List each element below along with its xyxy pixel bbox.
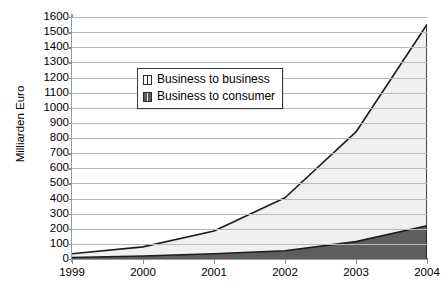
y-tick-mark bbox=[67, 93, 72, 94]
y-tick-mark bbox=[67, 168, 72, 169]
chart-legend: Business to business Business to consume… bbox=[137, 68, 283, 109]
gridline bbox=[72, 153, 427, 154]
y-tick-mark bbox=[67, 153, 72, 154]
x-tick-label: 1999 bbox=[42, 266, 102, 278]
gridline bbox=[72, 214, 427, 215]
y-tick-label: 300 bbox=[22, 208, 69, 220]
x-tick-label: 2002 bbox=[255, 266, 315, 278]
y-tick-mark bbox=[67, 123, 72, 124]
gridline bbox=[72, 168, 427, 169]
gridline bbox=[72, 183, 427, 184]
y-tick-label: 1300 bbox=[22, 57, 69, 69]
y-tick-label: 1200 bbox=[22, 72, 69, 84]
legend-swatch-business-to-business bbox=[143, 75, 152, 85]
x-tick-mark bbox=[214, 259, 215, 264]
y-tick-label: 1400 bbox=[22, 42, 69, 54]
gridline bbox=[72, 62, 427, 63]
y-tick-label: 100 bbox=[22, 238, 69, 250]
y-tick-mark bbox=[67, 32, 72, 33]
y-tick-label: 1600 bbox=[22, 11, 69, 23]
y-tick-label: 900 bbox=[22, 117, 69, 129]
x-tick-mark bbox=[427, 259, 428, 264]
x-tick-label: 2003 bbox=[326, 266, 386, 278]
y-tick-label: 0 bbox=[22, 253, 69, 265]
chart-title bbox=[90, 0, 390, 6]
y-tick-mark bbox=[67, 108, 72, 109]
gridline bbox=[72, 199, 427, 200]
area-business-to-business bbox=[72, 25, 427, 259]
y-tick-label: 1500 bbox=[22, 26, 69, 38]
y-tick-mark bbox=[67, 47, 72, 48]
legend-item-business-to-business: Business to business bbox=[143, 72, 275, 87]
legend-label-business-to-consumer: Business to consumer bbox=[157, 90, 275, 103]
x-tick-mark bbox=[285, 259, 286, 264]
y-tick-mark bbox=[67, 199, 72, 200]
legend-item-business-to-consumer: Business to consumer bbox=[143, 89, 275, 104]
gridline bbox=[72, 17, 427, 18]
y-tick-label: 1100 bbox=[22, 87, 69, 99]
y-tick-label: 800 bbox=[22, 132, 69, 144]
y-tick-mark bbox=[67, 17, 72, 18]
gridline bbox=[72, 123, 427, 124]
y-tick-mark bbox=[67, 183, 72, 184]
y-tick-label: 600 bbox=[22, 163, 69, 175]
y-tick-label: 700 bbox=[22, 147, 69, 159]
x-tick-mark bbox=[143, 259, 144, 264]
y-tick-label: 200 bbox=[22, 223, 69, 235]
y-tick-label: 1000 bbox=[22, 102, 69, 114]
y-tick-mark bbox=[67, 229, 72, 230]
y-tick-mark bbox=[67, 214, 72, 215]
y-tick-mark bbox=[67, 244, 72, 245]
x-tick-mark bbox=[356, 259, 357, 264]
x-tick-label: 2001 bbox=[184, 266, 244, 278]
x-tick-mark bbox=[72, 259, 73, 264]
legend-label-business-to-business: Business to business bbox=[157, 73, 270, 86]
y-tick-label: 500 bbox=[22, 178, 69, 190]
plot-area bbox=[72, 17, 427, 259]
gridline bbox=[72, 32, 427, 33]
gridline bbox=[72, 244, 427, 245]
y-tick-mark bbox=[67, 62, 72, 63]
gridline bbox=[72, 47, 427, 48]
y-tick-label: 400 bbox=[22, 193, 69, 205]
y-axis-tick-labels: 0100200300400500600700800900100011001200… bbox=[22, 10, 69, 263]
y-tick-mark bbox=[67, 138, 72, 139]
x-axis-tick-labels: 199920002001200220032004 bbox=[0, 266, 438, 286]
x-tick-label: 2004 bbox=[397, 266, 445, 278]
gridline bbox=[72, 229, 427, 230]
legend-swatch-business-to-consumer bbox=[143, 92, 152, 102]
y-tick-mark bbox=[67, 78, 72, 79]
gridline bbox=[72, 138, 427, 139]
x-tick-label: 2000 bbox=[113, 266, 173, 278]
